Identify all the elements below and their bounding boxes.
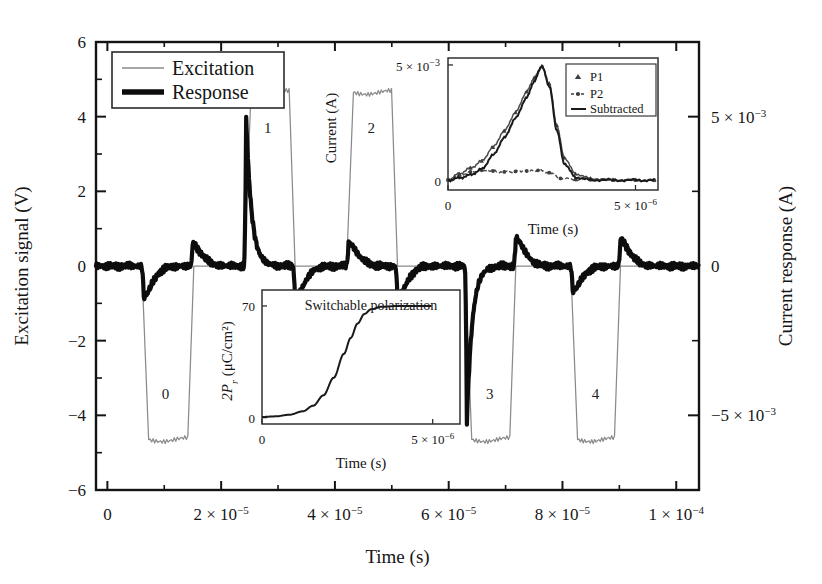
inset-legend-label-p1: P1 — [590, 70, 603, 84]
left-y-axis-title: Excitation signal (V) — [11, 186, 33, 345]
inset-current-x-axis-title: Time (s) — [528, 221, 579, 238]
inset-legend-label-subtracted: Subtracted — [590, 102, 644, 116]
x-tick-label: 8 × 10−5 — [535, 504, 591, 524]
inset-polarization-x-tick-label: 0 — [259, 432, 266, 447]
inset-current-marker-p2 — [525, 169, 529, 173]
y2-tick-label: 5 × 10−3 — [711, 107, 767, 127]
inset-current-marker-p2 — [514, 170, 518, 174]
x-tick-label: 6 × 10−5 — [421, 504, 477, 524]
y-tick-label: 2 — [78, 182, 87, 201]
x-tick-label: 2 × 10−5 — [193, 504, 249, 524]
inset-current-legend: P1P2Subtracted — [566, 64, 656, 116]
y-tick-label: −6 — [68, 481, 86, 500]
right-y-axis: 5 × 10−30−5 × 10−3 — [688, 107, 776, 426]
inset-legend-label-p2: P2 — [590, 87, 603, 101]
inset-polarization-x-axis-title: Time (s) — [336, 455, 387, 472]
inset-polarization-y-tick-label: 70 — [242, 299, 255, 314]
pulse-label-2: 2 — [368, 120, 376, 136]
inset-current-marker-p2 — [547, 171, 551, 175]
inset-current-marker-p2 — [491, 169, 495, 173]
inset-polarization-chart: 05 × 10−6700Switchable polarization — [242, 290, 460, 447]
y-tick-label: −4 — [68, 406, 87, 425]
y2-tick-label: 0 — [711, 257, 720, 276]
x-tick-label: 0 — [103, 505, 112, 524]
legend-label-response: Response — [172, 81, 249, 104]
pulse-label-4: 4 — [592, 386, 600, 402]
right-y-axis-title: Current response (A) — [775, 186, 797, 346]
y-tick-label: −2 — [68, 332, 86, 351]
inset-current-marker-p2 — [559, 177, 563, 181]
x-axis-title: Time (s) — [365, 546, 429, 568]
pulse-label-3: 3 — [486, 386, 494, 402]
inset-current-marker-p2 — [502, 170, 506, 174]
y-tick-label: 4 — [78, 108, 87, 127]
pulse-label-0: 0 — [162, 386, 170, 402]
pulse-label-1: 1 — [264, 120, 272, 136]
inset-current-y-tick-label: 0 — [435, 174, 442, 189]
x-tick-label: 1 × 10−4 — [649, 504, 705, 524]
inset-current-x-tick-label: 0 — [445, 198, 452, 213]
y2-tick-label: −5 × 10−3 — [711, 405, 776, 425]
pund-measurement-chart: 02 × 10−54 × 10−56 × 10−58 × 10−51 × 10−… — [0, 0, 822, 584]
inset-polarization-y-tick-label: 0 — [249, 411, 256, 426]
y-tick-label: 6 — [78, 33, 87, 52]
x-tick-label: 4 × 10−5 — [307, 504, 363, 524]
inset-current-y-axis-title: Current (A) — [323, 93, 340, 163]
legend-label-excitation: Excitation — [172, 57, 254, 79]
main-legend: ExcitationResponse — [112, 52, 284, 108]
figure-root: 02 × 10−54 × 10−56 × 10−58 × 10−51 × 10−… — [0, 0, 822, 584]
inset-legend-marker-p2-dot — [576, 92, 580, 96]
inset-current-marker-p2 — [536, 168, 540, 172]
y-tick-label: 0 — [78, 257, 87, 276]
